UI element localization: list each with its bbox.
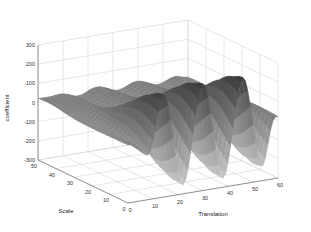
surface-plot-canvas: -300-200-1000100200300010203040500102030… (0, 0, 311, 232)
x-axis-label: Translation (198, 211, 227, 217)
tick-label: -200 (24, 138, 35, 144)
tick-label: 0 (128, 207, 131, 213)
tick-label: 50 (252, 186, 258, 192)
tick-label: 10 (152, 203, 158, 209)
tick-label: 0 (122, 206, 125, 212)
z-axis-label: coefficient (4, 94, 10, 121)
tick-label: 30 (202, 195, 208, 201)
tick-label: 30 (67, 180, 73, 186)
tick-label: 0 (32, 100, 35, 106)
tick-label: 40 (227, 190, 233, 196)
tick-label: 300 (26, 42, 35, 48)
tick-label: -100 (24, 119, 35, 125)
y-axis-label: Scale (58, 208, 74, 214)
tick-label: 40 (49, 172, 55, 178)
tick-label: 10 (103, 197, 109, 203)
tick-label: 200 (26, 61, 35, 67)
surface-plot-figure: -300-200-1000100200300010203040500102030… (0, 0, 311, 232)
tick-label: 60 (277, 182, 283, 188)
tick-label: 20 (177, 199, 183, 205)
tick-label: 20 (85, 189, 91, 195)
tick-label: 100 (26, 80, 35, 86)
tick-label: 50 (31, 163, 37, 169)
